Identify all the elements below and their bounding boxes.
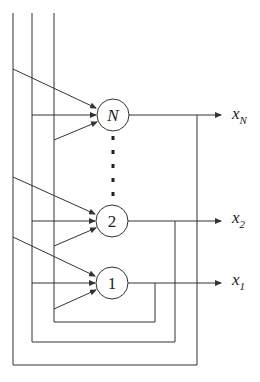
diagram-canvas: N 2 1 xN x2 x1 [0, 0, 260, 382]
output-label-2: x2 [231, 208, 246, 230]
edge-bus3-to-2 [54, 228, 96, 246]
output-label-N: xN [231, 104, 248, 126]
output-label-1: x1 [231, 270, 245, 292]
node-label-N: N [106, 106, 120, 125]
edge-bus3-to-1 [54, 290, 96, 309]
edge-bus3-to-N [54, 122, 97, 140]
recurrent-network-diagram: N 2 1 xN x2 x1 [0, 0, 260, 382]
node-label-1: 1 [108, 274, 117, 293]
node-label-2: 2 [108, 212, 117, 231]
